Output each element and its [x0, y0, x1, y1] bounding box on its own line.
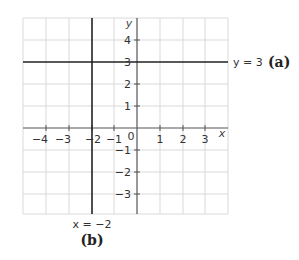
- line-a-equation: y = 3: [233, 56, 263, 69]
- line-b-part-label: (b): [80, 232, 103, 248]
- y-tick-label: −2: [115, 166, 131, 179]
- x-tick-label: 3: [202, 133, 209, 146]
- y-tick-label: 2: [124, 78, 131, 91]
- y-tick-label: 1: [124, 100, 131, 113]
- grid: [23, 18, 228, 214]
- coordinate-plane: −4 −3 −2 −1 1 2 3 0 x y 4 3 2 1 −1 −2 −3…: [0, 0, 299, 260]
- x-axis-label: x: [218, 127, 226, 140]
- origin-label: 0: [128, 130, 135, 143]
- y-tick-label: 4: [124, 34, 131, 47]
- line-a-part-label: (a): [268, 54, 290, 70]
- x-tick-label: −3: [55, 133, 71, 146]
- y-tick-label: −1: [115, 144, 131, 157]
- y-tick-label: 3: [124, 56, 131, 69]
- line-b-equation: x = −2: [73, 218, 112, 231]
- y-axis-label: y: [125, 17, 133, 30]
- x-tick-label: 1: [157, 133, 164, 146]
- x-tick-label: −2: [85, 133, 101, 146]
- x-tick-label: 2: [180, 133, 187, 146]
- x-tick-label: −4: [32, 133, 48, 146]
- y-tick-label: −3: [115, 188, 131, 201]
